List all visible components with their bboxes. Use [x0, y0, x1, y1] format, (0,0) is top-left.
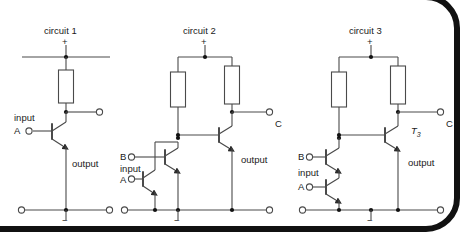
c3-resistor-2	[391, 66, 406, 104]
c2-t3-emitter-slope	[219, 142, 232, 150]
c3-ta-collector-slope	[326, 178, 339, 186]
circuit-2-title: circuit 2	[183, 26, 216, 36]
circuit-1-output-label: output	[72, 159, 98, 169]
circuit-3-graphics	[299, 45, 443, 220]
c2-ta-collector-slope	[143, 170, 155, 178]
c3-ta-emitter-slope	[326, 194, 339, 202]
circuit-2-graphics	[121, 45, 272, 220]
c1-t1-emitter-slope	[52, 139, 66, 148]
c3-t3-collector-slope	[385, 126, 398, 134]
c1-terminal-ground-right	[106, 207, 112, 213]
c2-resistor-2	[225, 66, 240, 104]
circuit-1-graphics	[18, 45, 112, 220]
circuit-1-ground-label: −	[62, 216, 68, 226]
circuit-3-supply-label: +	[367, 37, 373, 47]
c1-resistor-1	[59, 70, 74, 103]
c3-tb-emitter-slope	[326, 164, 339, 172]
c2-tb-emitter-slope	[165, 164, 178, 172]
figure-page: .w{stroke:#4a4a4a;stroke-width:1.1;fill:…	[0, 0, 475, 239]
circuit-3-input-b-label: B	[298, 152, 304, 162]
c3-terminal-ground-right	[437, 207, 443, 213]
c2-node-base-join	[176, 133, 180, 137]
circuit-1-input-a-label: A	[14, 126, 20, 136]
c2-tb-collector-slope	[165, 148, 178, 156]
circuit-3-transistor-3-label: T3	[411, 126, 421, 138]
c2-ta-emitter-slope	[143, 186, 155, 194]
circuit-2-input-a-label: A	[120, 175, 126, 185]
c3-node-base-join	[337, 133, 341, 137]
circuit-1-title: circuit 1	[44, 26, 77, 36]
circuit-3-terminal-c-label: C	[446, 119, 453, 129]
circuit-2-output-label: output	[241, 155, 267, 165]
c2-node-gnd-1	[153, 208, 157, 212]
circuit-2-terminal-c-label: C	[275, 119, 282, 129]
circuit-2-input-label: input	[120, 164, 141, 174]
c2-node-supply	[203, 55, 207, 59]
circuit-3-ground-label: −	[367, 216, 373, 226]
c3-t3-emitter-slope	[385, 142, 398, 150]
c3-terminal-ground-left	[299, 207, 305, 213]
c2-terminal-c	[266, 109, 272, 115]
circuit-2-input-b-label: B	[120, 152, 126, 162]
circuit-3-title: circuit 3	[349, 26, 382, 36]
c2-t3-collector-slope	[219, 126, 232, 134]
c2-terminal-b	[128, 154, 134, 160]
c3-node-supply	[369, 55, 373, 59]
c3-node-gnd-1	[337, 208, 341, 212]
circuit-3-input-a-label: A	[298, 182, 304, 192]
c3-terminal-c	[437, 109, 443, 115]
c3-terminal-b	[306, 154, 312, 160]
transistor-3-subscript: 3	[417, 131, 421, 138]
c2-terminal-ground-right	[266, 207, 272, 213]
c3-terminal-a	[306, 184, 312, 190]
c1-terminal-input-a	[26, 128, 32, 134]
c1-terminal-right	[96, 109, 102, 115]
c3-resistor-1	[332, 72, 347, 107]
c1-terminal-ground-left	[18, 207, 24, 213]
c2-terminal-ground-left	[121, 207, 127, 213]
c1-t1-collector-slope	[52, 122, 66, 131]
c3-tb-collector-slope	[326, 148, 339, 156]
c2-node-gnd-3	[230, 208, 234, 212]
circuit-1-input-label: input	[14, 113, 35, 123]
c2-terminal-a	[128, 176, 134, 182]
c3-node-gnd-3	[396, 208, 400, 212]
circuit-1-supply-label: +	[62, 37, 68, 47]
circuit-2-ground-label: −	[174, 216, 180, 226]
circuit-3-input-label: input	[298, 168, 319, 178]
circuit-2-supply-label: +	[201, 37, 207, 47]
c2-resistor-1	[171, 72, 186, 107]
circuit-3-output-label: output	[408, 158, 434, 168]
